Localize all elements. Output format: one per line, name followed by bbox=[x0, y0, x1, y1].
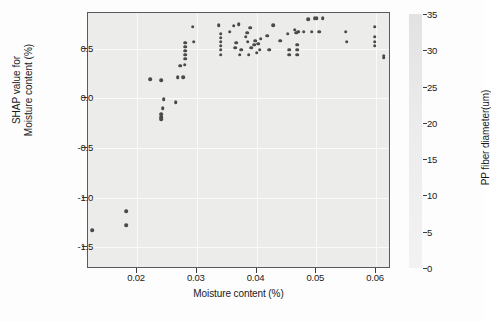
data-point bbox=[176, 76, 180, 80]
data-point bbox=[310, 30, 314, 34]
y-axis-label-line1: SHAP value for bbox=[11, 5, 23, 175]
data-point bbox=[234, 41, 238, 45]
x-axis-label: Moisture content (%) bbox=[87, 288, 390, 299]
data-point bbox=[252, 43, 256, 47]
data-point bbox=[184, 41, 188, 45]
data-point bbox=[344, 30, 348, 34]
y-tick-label-3: -1.0 bbox=[77, 191, 93, 202]
colorbar-tick-label-2: 25 bbox=[427, 81, 437, 92]
data-point bbox=[184, 49, 188, 53]
data-point bbox=[184, 57, 188, 61]
colorbar-label: PP fiber diameter(um) bbox=[480, 43, 491, 233]
data-point bbox=[288, 53, 292, 57]
data-point bbox=[217, 23, 221, 27]
data-point bbox=[244, 35, 248, 39]
data-point bbox=[159, 79, 163, 83]
data-point bbox=[248, 26, 252, 30]
data-point bbox=[321, 16, 325, 20]
data-point bbox=[237, 22, 241, 26]
data-point bbox=[159, 117, 163, 121]
x-gridline-3 bbox=[316, 13, 317, 267]
data-point bbox=[288, 48, 292, 52]
x-tick-label-1: 0.03 bbox=[187, 272, 205, 283]
y-gridline-1 bbox=[88, 98, 389, 99]
data-point bbox=[247, 53, 251, 57]
colorbar-tick-label-3: 20 bbox=[427, 117, 437, 128]
data-point bbox=[279, 39, 283, 43]
data-point bbox=[90, 229, 94, 233]
data-point bbox=[295, 43, 299, 47]
x-tick-label-3: 0.05 bbox=[306, 272, 324, 283]
y-tick-label-0: 0.5 bbox=[80, 42, 93, 53]
data-point bbox=[306, 17, 310, 21]
x-tick-label-4: 0.06 bbox=[366, 272, 384, 283]
data-point bbox=[258, 48, 262, 52]
x-tick-label-2: 0.04 bbox=[247, 272, 265, 283]
data-point bbox=[259, 37, 263, 41]
data-point bbox=[345, 40, 349, 44]
y-axis-label: SHAP value for Moisture content (%) bbox=[11, 5, 35, 175]
data-point bbox=[181, 76, 185, 80]
data-point bbox=[219, 36, 223, 40]
data-point bbox=[373, 44, 377, 48]
data-point bbox=[192, 40, 196, 44]
data-point bbox=[373, 35, 377, 39]
data-point bbox=[219, 48, 223, 52]
x-gridline-1 bbox=[197, 13, 198, 267]
colorbar-tick-label-7: 0 bbox=[427, 263, 432, 274]
data-point bbox=[184, 53, 188, 57]
colorbar-tick-label-1: 30 bbox=[427, 45, 437, 56]
data-point bbox=[232, 24, 236, 28]
x-tick-label-0: 0.02 bbox=[127, 272, 145, 283]
x-gridline-0 bbox=[137, 13, 138, 267]
y-tick-label-1: 0.0 bbox=[80, 92, 93, 103]
data-point bbox=[233, 46, 237, 50]
data-point bbox=[315, 16, 319, 20]
colorbar-tick-label-6: 5 bbox=[427, 226, 432, 237]
data-point bbox=[373, 25, 377, 29]
data-point bbox=[183, 63, 187, 67]
data-point bbox=[246, 40, 250, 44]
data-point bbox=[295, 53, 299, 57]
data-point bbox=[162, 98, 166, 102]
colorbar-tick-label-5: 10 bbox=[427, 190, 437, 201]
plot-area bbox=[87, 12, 390, 268]
data-point bbox=[239, 48, 243, 52]
x-gridline-4 bbox=[376, 13, 377, 267]
data-point bbox=[297, 30, 301, 34]
y-tick-label-4: -1.5 bbox=[77, 241, 93, 252]
y-gridline-4 bbox=[88, 247, 389, 248]
data-point bbox=[245, 31, 249, 35]
y-gridline-3 bbox=[88, 198, 389, 199]
y-tick-label-2: -0.5 bbox=[77, 141, 93, 152]
data-point bbox=[178, 64, 182, 68]
data-point bbox=[219, 40, 223, 44]
data-point bbox=[228, 30, 232, 34]
data-point bbox=[257, 42, 261, 46]
y-axis-label-line2: Moisture content (%) bbox=[23, 5, 35, 175]
data-point bbox=[124, 224, 128, 228]
colorbar-tick-label-4: 15 bbox=[427, 154, 437, 165]
colorbar-gradient bbox=[409, 14, 422, 268]
colorbar-tick-label-0: 35 bbox=[427, 9, 437, 20]
data-point bbox=[271, 23, 275, 27]
data-point bbox=[184, 45, 188, 49]
data-point bbox=[161, 106, 165, 110]
data-point bbox=[265, 34, 269, 38]
data-point bbox=[295, 48, 299, 52]
data-point bbox=[238, 53, 242, 57]
data-point bbox=[124, 210, 128, 214]
data-point bbox=[302, 30, 306, 34]
data-point bbox=[148, 78, 152, 82]
data-point bbox=[219, 53, 223, 57]
data-point bbox=[191, 25, 195, 29]
data-point bbox=[219, 32, 223, 36]
data-point bbox=[286, 32, 290, 36]
data-point bbox=[317, 30, 321, 34]
data-point bbox=[382, 56, 386, 60]
y-gridline-2 bbox=[88, 148, 389, 149]
data-point bbox=[219, 44, 223, 48]
data-point bbox=[267, 48, 271, 52]
data-point bbox=[174, 101, 178, 105]
